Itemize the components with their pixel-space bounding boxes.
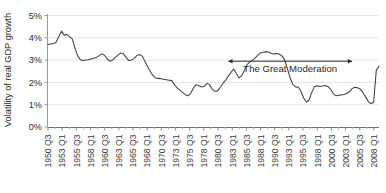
x-tick-label: 1993 Q1 [284,134,294,167]
x-tick-label: 1985 Q3 [242,134,252,167]
x-tick-label: 1955 Q3 [72,134,82,167]
x-tick-label: 2008 Q1 [369,134,379,167]
x-tick-label: 1970 Q3 [157,134,167,167]
x-tick-label: 1960 Q3 [100,134,110,167]
x-tick-label: 1980 Q3 [213,134,223,167]
x-tick-label: 1950 Q3 [43,134,53,167]
x-tick-label: 1968 Q1 [142,134,152,167]
x-tick-label: 1953 Q1 [57,134,67,167]
y-tick-label: 4% [29,33,42,43]
y-tick-label: 3% [29,55,42,65]
x-tick-label: 1998 Q1 [313,134,323,167]
y-tick-label: 2% [29,78,42,88]
y-tick-label: 5% [29,11,42,21]
x-tick-label: 1958 Q1 [86,134,96,167]
chart-canvas: 0%1%2%3%4%5% 1950 Q31953 Q11955 Q31958 Q… [0,0,386,193]
x-tick-label: 2000 Q3 [327,134,337,167]
x-tick-label: 1978 Q1 [199,134,209,167]
x-tick-label: 2003 Q1 [341,134,351,167]
x-tick-label: 1983 Q1 [228,134,238,167]
x-tick-label: 2005 Q3 [355,134,365,167]
x-tick-label: 1975 Q3 [185,134,195,167]
y-tick-label: 0% [29,122,42,132]
y-axis-title: Volatility of real GDP growth [3,13,13,127]
x-tick-label: 1963 Q1 [114,134,124,167]
great-moderation-label: The Great Moderation [243,63,337,74]
x-tick-label: 1988 Q1 [256,134,266,167]
x-tick-label: 1990 Q3 [270,134,280,167]
x-tick-label: 1965 Q3 [128,134,138,167]
x-tick-label: 1995 Q3 [298,134,308,167]
y-tick-label: 1% [29,100,42,110]
x-tick-label: 1973 Q1 [171,134,181,167]
gdp-volatility-chart: 0%1%2%3%4%5% 1950 Q31953 Q11955 Q31958 Q… [0,0,386,193]
